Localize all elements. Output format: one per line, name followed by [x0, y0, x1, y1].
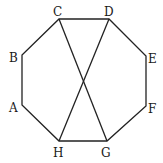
octagon-diagram: ABCDEFGH [0, 0, 163, 163]
vertex-label-g: G [101, 146, 111, 160]
vertex-label-h: H [53, 146, 63, 160]
vertex-label-c: C [53, 5, 62, 19]
diagonals [59, 19, 109, 141]
vertex-label-e: E [148, 52, 157, 66]
vertex-label-d: D [104, 5, 114, 19]
vertex-label-b: B [9, 51, 18, 65]
diagram-svg: ABCDEFGH [0, 0, 163, 163]
vertex-label-f: F [148, 102, 156, 116]
vertex-label-a: A [8, 101, 18, 115]
